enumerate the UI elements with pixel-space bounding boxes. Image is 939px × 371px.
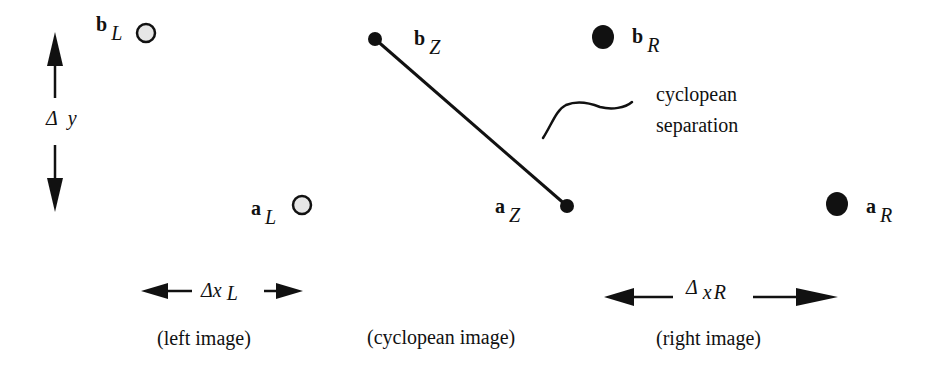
point-aL: [293, 196, 311, 214]
label-aR: aR: [866, 196, 892, 216]
caption-cyclopean-image: (cyclopean image): [367, 327, 515, 347]
delta-xR-label: Δ xR: [686, 282, 726, 302]
label-aZ: aZ: [495, 196, 520, 216]
point-bL: [137, 24, 155, 42]
point-aR: [826, 192, 848, 216]
label-bR: bR: [632, 26, 659, 46]
arrow-right-icon: [276, 283, 303, 299]
point-bZ: [368, 32, 382, 46]
arrow-right-icon: [796, 288, 838, 306]
point-aZ: [560, 199, 574, 213]
point-bR: [592, 25, 614, 49]
annotation-line1: cyclopean: [656, 84, 737, 104]
annotation-line2: separation: [656, 115, 738, 135]
label-bL: bL: [96, 14, 122, 34]
caption-left-image: (left image): [157, 328, 251, 348]
delta-xL-label: Δx L: [201, 280, 238, 300]
arrow-down-icon: [47, 178, 63, 212]
arrow-left-icon: [604, 288, 634, 306]
arrow-left-icon: [141, 283, 168, 299]
delta-y-label: Δ y: [46, 108, 77, 128]
diagram-canvas: [0, 0, 939, 371]
label-bZ: bZ: [414, 28, 440, 48]
label-aL: aL: [251, 198, 276, 218]
caption-right-image: (right image): [656, 328, 761, 348]
cyclopean-separation-line: [375, 39, 567, 206]
arrow-up-icon: [47, 32, 63, 66]
annotation-leader-curve: [543, 102, 632, 138]
